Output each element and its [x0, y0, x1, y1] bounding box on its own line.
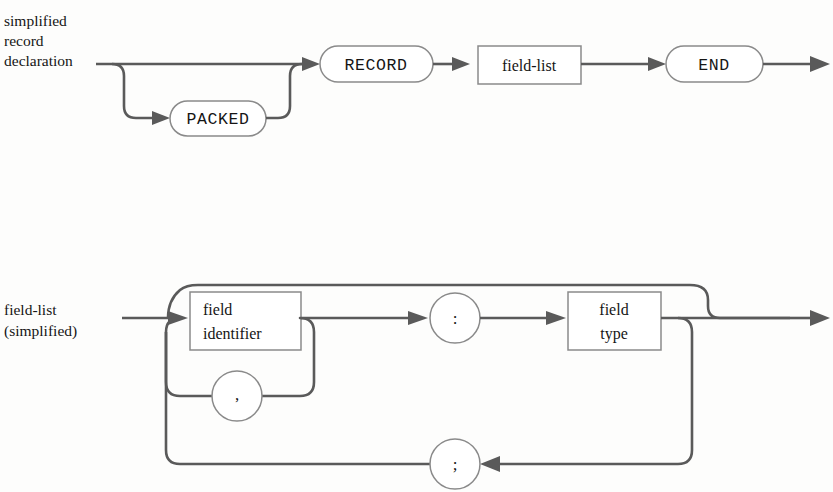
- node-record-label: RECORD: [344, 56, 407, 75]
- rail-packed-branch-in: [112, 64, 158, 118]
- arrowhead-into-record: [302, 57, 320, 71]
- arrowhead-exit-record-decl: [810, 56, 830, 72]
- node-field-type-label-line-1: field: [599, 301, 628, 318]
- node-colon-label: :: [453, 309, 458, 328]
- syntax-diagram-page: simplified record declaration PACKED REC…: [0, 0, 833, 492]
- node-end-label: END: [698, 56, 730, 75]
- rail-semicolon-loop-left: [166, 332, 430, 464]
- rail-packed-branch-out: [266, 64, 302, 118]
- side-label-line-1: simplified: [4, 12, 67, 29]
- side-label-line-3: declaration: [4, 52, 73, 69]
- side-label-fieldlist-line-2: (simplified): [4, 322, 77, 340]
- arrowhead-into-fieldlist: [452, 57, 470, 71]
- arrowhead-into-field-type: [546, 311, 566, 325]
- side-label-fieldlist-line-1: field-list: [4, 301, 57, 318]
- diagram-field-list-simplified: field-list (simplified) field identifier…: [4, 285, 830, 489]
- node-field-identifier-label-line-2: identifier: [203, 325, 262, 342]
- side-label-line-2: record: [4, 32, 44, 49]
- arrowhead-exit-fieldlist: [810, 310, 830, 326]
- arrowhead-into-colon: [408, 311, 428, 325]
- node-field-list-label: field-list: [502, 57, 557, 74]
- railroad-diagram-canvas: simplified record declaration PACKED REC…: [0, 0, 833, 492]
- arrowhead-into-packed: [152, 111, 170, 125]
- arrowhead-into-semicolon: [480, 456, 500, 472]
- node-field-identifier-label-line-1: field: [203, 301, 232, 318]
- node-semicolon-label: ;: [453, 455, 458, 474]
- node-comma-label: ,: [235, 385, 239, 404]
- arrowhead-into-end: [648, 57, 666, 71]
- diagram-record-declaration: simplified record declaration PACKED REC…: [4, 12, 830, 136]
- node-packed-label: PACKED: [186, 110, 249, 129]
- node-field-type-label-line-2: type: [600, 325, 628, 343]
